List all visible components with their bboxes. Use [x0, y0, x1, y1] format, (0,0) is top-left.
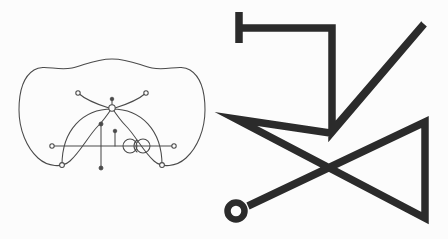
node-axis-right-end — [172, 144, 176, 148]
node-apex-circle — [109, 105, 115, 111]
node-tick-long-top — [99, 122, 103, 126]
node-tick-short-top — [113, 129, 117, 133]
left-figure-node-group — [50, 91, 176, 170]
node-upper-left-endpoint — [76, 91, 80, 95]
right-figure — [228, 12, 426, 220]
node-arc-left-foot — [60, 163, 65, 168]
end-ring-icon — [228, 203, 245, 220]
upper-left-curve-path — [78, 93, 109, 108]
node-upper-right-endpoint — [144, 91, 148, 95]
blob-outline-path — [19, 59, 205, 166]
node-tick-long-bottom — [99, 166, 103, 170]
upper-right-curve-path — [115, 93, 146, 108]
left-figure — [19, 59, 205, 170]
inner-big-arc-path — [62, 109, 162, 165]
node-apex-stem-top — [110, 97, 114, 101]
node-arc-right-foot — [160, 163, 165, 168]
drawing-canvas — [0, 0, 448, 239]
zigzag-polyline-path — [236, 24, 425, 218]
figures-svg — [0, 0, 448, 239]
node-axis-left-end — [50, 144, 54, 148]
